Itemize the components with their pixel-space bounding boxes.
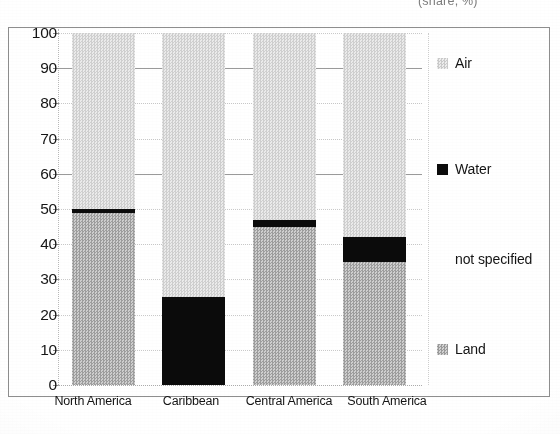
chart-legend: AirWaternot specifiedLand bbox=[428, 33, 542, 385]
x-axis-labels: North AmericaCaribbeanCentral AmericaSou… bbox=[44, 394, 436, 414]
x-axis-category-label: North America bbox=[44, 394, 142, 414]
y-axis-tick-label: 100 bbox=[11, 25, 57, 41]
y-axis-spine bbox=[58, 29, 59, 385]
y-axis-tick-label: 80 bbox=[11, 96, 57, 112]
y-axis-tick-label: 20 bbox=[11, 307, 57, 323]
bar-segment-air bbox=[72, 33, 135, 209]
y-axis-tick-label: 60 bbox=[11, 166, 57, 182]
plot-area bbox=[58, 33, 420, 385]
legend-label: not specified bbox=[455, 251, 532, 267]
x-axis-line bbox=[58, 385, 422, 386]
legend-swatch-water bbox=[437, 164, 448, 175]
y-axis-tick-label: 50 bbox=[11, 201, 57, 217]
bar-segment-water bbox=[72, 209, 135, 213]
x-axis-category-label: Caribbean bbox=[142, 394, 240, 414]
bar-segment-land bbox=[253, 227, 316, 385]
chart-unit-caption: (share, %) bbox=[418, 0, 478, 8]
legend-item[interactable]: not specified bbox=[437, 251, 532, 267]
y-axis-tick-label: 0 bbox=[11, 377, 57, 393]
legend-label: Air bbox=[455, 55, 472, 71]
legend-swatch-notspec bbox=[437, 254, 448, 265]
bar-segment-water bbox=[343, 237, 406, 262]
legend-label: Water bbox=[455, 161, 491, 177]
y-axis-tick-label: 10 bbox=[11, 342, 57, 358]
bar-segment-air bbox=[162, 33, 225, 297]
legend-item[interactable]: Air bbox=[437, 55, 472, 71]
x-axis-category-label: South America bbox=[338, 394, 436, 414]
bar-group bbox=[162, 33, 225, 385]
y-axis: 0102030405060708090100 bbox=[9, 27, 57, 387]
bar-segment-land bbox=[343, 262, 406, 385]
legend-swatch-land bbox=[437, 344, 448, 355]
bar-segment-water bbox=[162, 297, 225, 385]
x-axis-category-label: Central America bbox=[240, 394, 338, 414]
legend-swatch-air bbox=[437, 58, 448, 69]
y-axis-tick-label: 30 bbox=[11, 272, 57, 288]
bar-segment-air bbox=[343, 33, 406, 237]
bar-group bbox=[72, 33, 135, 385]
bar-group bbox=[253, 33, 316, 385]
legend-item[interactable]: Land bbox=[437, 341, 486, 357]
legend-item[interactable]: Water bbox=[437, 161, 491, 177]
y-axis-tick-label: 40 bbox=[11, 236, 57, 252]
legend-label: Land bbox=[455, 341, 486, 357]
bar-group bbox=[343, 33, 406, 385]
y-axis-tick-label: 70 bbox=[11, 131, 57, 147]
bar-segment-air bbox=[253, 33, 316, 220]
bar-segment-water bbox=[253, 220, 316, 227]
bar-segment-land bbox=[72, 213, 135, 385]
y-axis-tick-label: 90 bbox=[11, 60, 57, 76]
